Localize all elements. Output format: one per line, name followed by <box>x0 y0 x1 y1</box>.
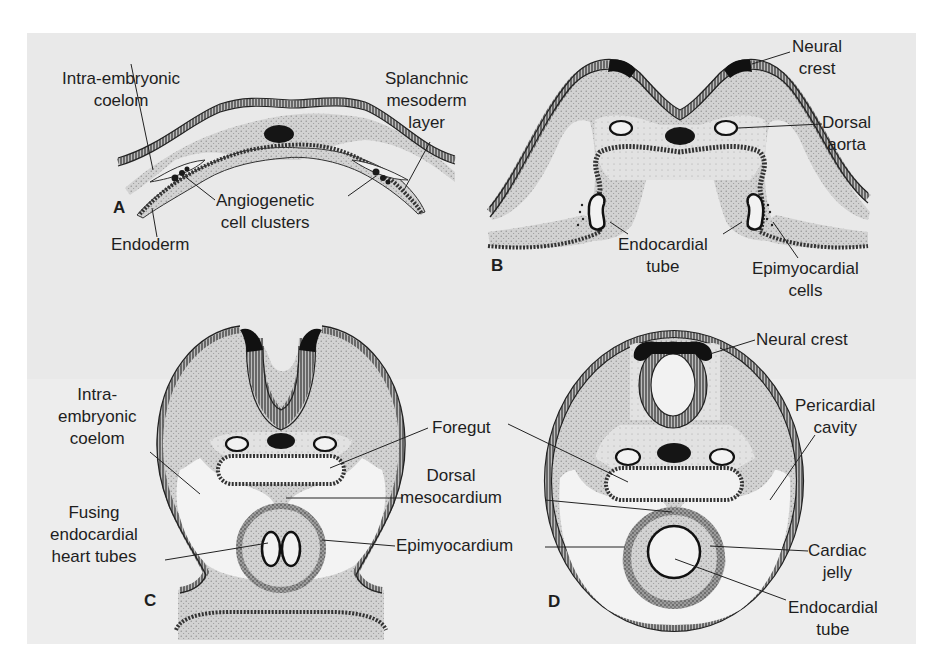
label-a-endoderm: Endoderm <box>111 234 189 256</box>
panel-letter-b: B <box>491 256 503 276</box>
diagram-c <box>150 326 428 640</box>
diagram-b <box>488 52 870 258</box>
label-b-dorsal-aorta: Dorsal aorta <box>822 112 871 156</box>
label-b-neural-crest: Neural crest <box>792 36 842 80</box>
panel-letter-d: D <box>548 592 560 612</box>
label-c-dorsal-mesocardium: Dorsal mesocardium <box>400 465 502 509</box>
label-c-foregut: Foregut <box>432 417 491 439</box>
label-c-fusing-endocardial-heart-tubes: Fusing endocardial heart tubes <box>50 502 138 568</box>
label-d-pericardial-cavity: Pericardial cavity <box>795 395 875 439</box>
label-c-intra-embryonic-coelom: Intra- embryonic coelom <box>58 384 136 450</box>
label-d-cardiac-jelly: Cardiac jelly <box>808 540 867 584</box>
panel-letter-c: C <box>144 591 156 611</box>
diagram-d <box>508 331 815 632</box>
panel-letter-a: A <box>113 198 125 218</box>
label-b-endocardial-tube: Endocardial tube <box>618 234 708 278</box>
label-c-epimyocardium: Epimyocardium <box>396 535 513 557</box>
label-a-intra-embryonic-coelom: Intra-embryonic coelom <box>62 68 180 112</box>
label-a-splanchnic-mesoderm-layer: Splanchnic mesoderm layer <box>385 68 468 134</box>
label-d-neural-crest: Neural crest <box>756 329 848 351</box>
label-d-endocardial-tube: Endocardial tube <box>788 597 878 641</box>
label-b-epimyocardial-cells: Epimyocardial cells <box>752 258 859 302</box>
label-a-angiogenetic-cell-clusters: Angiogenetic cell clusters <box>216 190 314 234</box>
